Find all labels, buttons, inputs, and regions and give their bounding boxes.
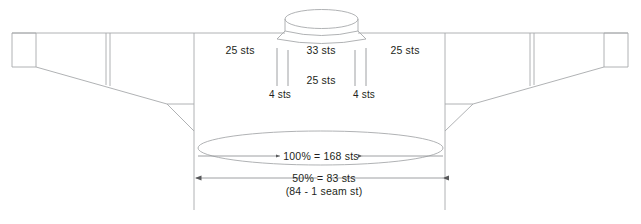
label-left-neck-edge: 4 sts xyxy=(269,89,291,101)
collar-top-ellipse xyxy=(285,10,358,29)
left-gusset-diagonal xyxy=(167,104,194,131)
collar xyxy=(277,10,366,44)
left-sleeve xyxy=(12,33,194,131)
collar-left-flare xyxy=(277,31,285,39)
label-hem-half: 50% = 83 sts xyxy=(292,172,355,184)
collar-bottom-arc xyxy=(285,31,358,36)
label-hem-full: 100% = 168 sts xyxy=(283,150,358,162)
left-cuff xyxy=(12,33,36,67)
right-sleeve-underarm-edge xyxy=(473,67,604,104)
neckline-opening xyxy=(277,39,366,44)
label-left-shoulder: 25 sts xyxy=(225,44,254,56)
label-neck-back: 25 sts xyxy=(306,74,335,86)
label-neck-front: 33 sts xyxy=(306,44,335,56)
label-right-neck-edge: 4 sts xyxy=(353,89,375,101)
knitting-schematic-diagram: 25 sts 33 sts 25 sts 25 sts 4 sts 4 sts … xyxy=(0,0,641,224)
label-hem-half-note: (84 - 1 seam st) xyxy=(286,185,363,197)
right-cuff xyxy=(604,33,628,67)
right-gusset-diagonal xyxy=(445,104,473,131)
collar-right-flare xyxy=(358,31,366,39)
right-sleeve xyxy=(445,33,628,131)
left-sleeve-underarm-edge xyxy=(36,67,167,104)
label-right-shoulder: 25 sts xyxy=(390,44,419,56)
